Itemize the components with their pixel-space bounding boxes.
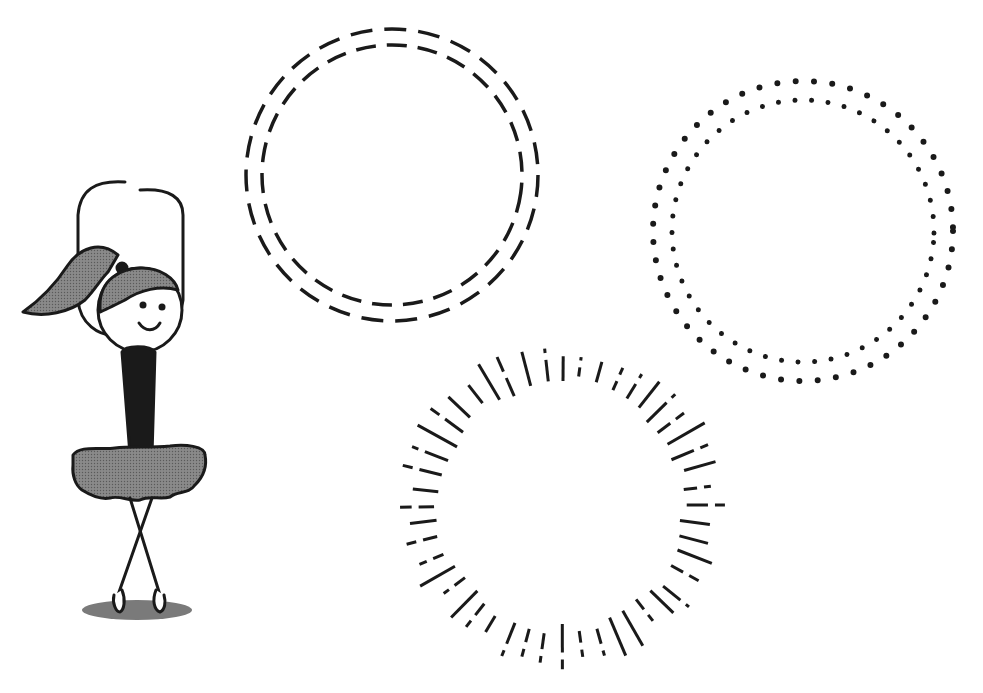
sunburst-ray (407, 542, 417, 544)
sunburst-ray (610, 618, 626, 656)
sunburst-ray (507, 623, 515, 644)
sunburst-ray (502, 650, 504, 656)
sunburst-ray (419, 561, 426, 564)
sunburst-ray (420, 566, 455, 586)
sunburst-ray (444, 590, 449, 594)
sunburst-ray (623, 611, 643, 646)
sunburst-ray (410, 520, 437, 523)
sunburst-ray (413, 489, 438, 492)
sunburst-ray (418, 425, 457, 447)
sunburst-ray (546, 360, 548, 381)
sunburst-ray (648, 615, 653, 621)
sunburst-ray (603, 650, 604, 655)
sunburst-ray (700, 445, 708, 448)
sunburst-ray (466, 621, 471, 627)
sunburst-ray (506, 378, 514, 396)
sunburst-ray (479, 364, 500, 400)
sunburst-ray (542, 633, 544, 649)
sunburst-ray (419, 469, 441, 475)
eye-left (140, 302, 147, 309)
sunburst-ray (522, 352, 531, 386)
sunburst-ray (663, 586, 680, 600)
tutu (73, 445, 206, 500)
sunburst-ray (639, 374, 641, 378)
sunburst-ray (412, 447, 418, 449)
sunburst-ray (678, 550, 712, 563)
sunburst-ray (475, 604, 484, 615)
sunburst-ray (579, 631, 581, 643)
sunburst-ray (448, 397, 470, 418)
sunburst-circle (400, 349, 725, 670)
sunburst-ray (455, 578, 465, 586)
shoe-left (113, 590, 124, 612)
sunburst-ray (445, 419, 463, 432)
double-dashed-circle (245, 28, 539, 322)
sunburst-ray (613, 381, 617, 390)
illustration-canvas (0, 0, 983, 693)
sunburst-ray (684, 488, 697, 490)
sunburst-ray (668, 423, 705, 444)
sunburst-ray (582, 650, 583, 657)
sunburst-ray (672, 394, 676, 398)
sunburst-ray (627, 384, 636, 399)
sunburst-ray (620, 368, 623, 375)
sunburst-ray (468, 385, 482, 403)
eye-right (159, 304, 166, 311)
sunburst-ray (540, 656, 541, 663)
sunburst-ray (658, 423, 671, 433)
sunburst-ray (679, 536, 708, 544)
sunburst-ray (597, 629, 601, 644)
sunburst-ray (686, 604, 689, 607)
sunburst-ray (684, 462, 715, 471)
sunburst-ray (676, 413, 684, 419)
double-dotted-circle (653, 81, 953, 381)
sunburst-ray (671, 450, 693, 459)
leotard (122, 347, 155, 455)
sunburst-ray (522, 649, 524, 657)
sunburst-ray (680, 521, 710, 525)
sunburst-ray (425, 452, 448, 461)
sunburst-ray (647, 403, 667, 422)
sunburst-ray (636, 599, 644, 609)
sunburst-ray (639, 382, 659, 408)
sunburst-ray (650, 591, 673, 613)
sunburst-ray (423, 536, 437, 540)
sunburst-ray (526, 629, 530, 642)
sunburst-ray (451, 591, 477, 618)
sunburst-ray (486, 616, 496, 632)
sunburst-ray (689, 576, 698, 581)
sunburst-ray (704, 486, 711, 487)
shoe-right (154, 590, 165, 612)
sunburst-ray (433, 554, 443, 558)
sunburst-ray (431, 408, 440, 414)
ballerina-figure (23, 182, 206, 620)
sunburst-ray (671, 566, 683, 573)
sunburst-ray (596, 362, 602, 382)
sunburst-ray (579, 367, 580, 376)
floor-shadow (82, 600, 192, 620)
sunburst-ray (403, 465, 413, 467)
sunburst-ray (497, 357, 503, 372)
